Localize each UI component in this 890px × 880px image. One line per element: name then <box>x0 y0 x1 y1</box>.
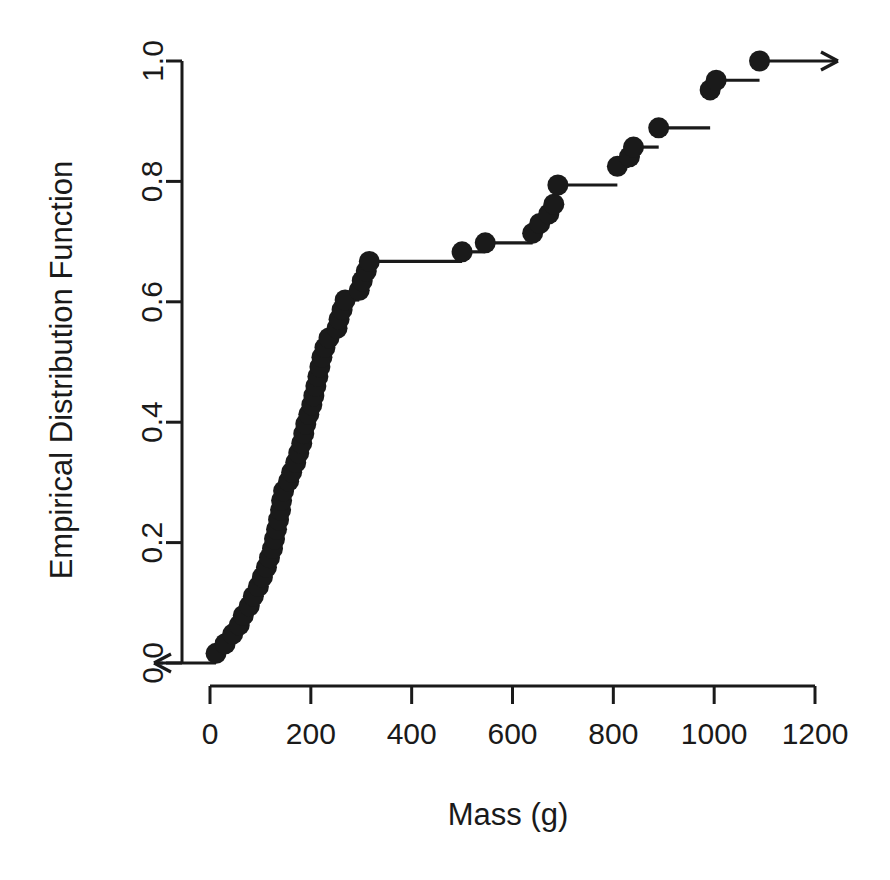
y-tick-label-3: 0.6 <box>136 281 169 323</box>
y-axis-title: Empirical Distribution Function <box>44 161 79 580</box>
y-tick-label-0: 0.0 <box>136 642 169 684</box>
x-tick-label-2: 400 <box>387 717 437 750</box>
data-point-42 <box>452 241 473 262</box>
data-point-54 <box>706 70 727 91</box>
ecdf-data-points <box>206 51 770 664</box>
ecdf-plot-canvas: 020040060080010001200 0.00.20.40.60.81.0… <box>0 0 890 880</box>
y-tick-label-1: 0.2 <box>136 522 169 564</box>
y-tick-labels: 0.00.20.40.60.81.0 <box>136 40 169 684</box>
data-point-51 <box>623 137 644 158</box>
x-tick-label-6: 1200 <box>782 717 849 750</box>
x-axis-title: Mass (g) <box>448 797 569 832</box>
data-point-47 <box>543 194 564 215</box>
ecdf-figure: 020040060080010001200 0.00.20.40.60.81.0… <box>0 0 890 880</box>
x-tick-label-4: 800 <box>588 717 638 750</box>
x-tick-labels: 020040060080010001200 <box>202 717 849 750</box>
x-tick-label-5: 1000 <box>681 717 748 750</box>
y-tick-label-5: 1.0 <box>136 40 169 82</box>
data-point-52 <box>648 117 669 138</box>
x-tick-label-0: 0 <box>202 717 219 750</box>
x-tick-label-1: 200 <box>286 717 336 750</box>
x-tick-label-3: 600 <box>487 717 537 750</box>
ecdf-step-lines <box>216 80 759 653</box>
y-tick-label-4: 0.8 <box>136 161 169 203</box>
data-point-43 <box>475 232 496 253</box>
data-point-48 <box>547 175 568 196</box>
y-tick-label-2: 0.4 <box>136 401 169 443</box>
data-point-41 <box>359 251 380 272</box>
y-axis <box>166 61 182 663</box>
x-axis <box>210 686 815 704</box>
